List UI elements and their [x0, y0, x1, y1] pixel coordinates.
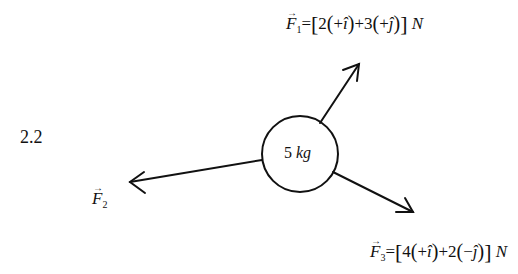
- force-unit: N: [412, 14, 423, 33]
- force-arrow-f2: [130, 160, 262, 193]
- sign-2: −: [463, 242, 473, 261]
- force-label-f1: →F1=[2(+î)+3(+ĵ)] N: [286, 13, 423, 35]
- vector-arrow-icon: →: [93, 183, 103, 193]
- subscript: 2: [102, 199, 107, 210]
- coefficient-2: 2: [448, 242, 457, 261]
- free-body-diagram: [0, 0, 518, 274]
- coefficient-1: 2: [318, 14, 327, 33]
- equals-sign: =: [385, 242, 395, 261]
- vector-f2: →F: [92, 190, 102, 207]
- vector-arrow-icon: →: [287, 8, 297, 18]
- vector-f3: →F: [370, 243, 380, 260]
- vector-arrow-icon: →: [371, 236, 381, 246]
- equals-sign: =: [301, 14, 311, 33]
- coefficient-2: 3: [364, 14, 373, 33]
- force-arrow-f3: [333, 172, 413, 212]
- problem-number: 2.2: [20, 128, 43, 146]
- force-label-f3: →F3=[4(+î)+2(−ĵ)] N: [370, 241, 507, 263]
- sign-1: +: [417, 242, 427, 261]
- bracket: ]: [400, 11, 407, 36]
- vector-f1: →F: [286, 15, 296, 32]
- mass-label: 5 kg: [284, 144, 311, 162]
- force-arrow-f1: [320, 64, 359, 123]
- sign-2: +: [379, 14, 389, 33]
- mass-unit: kg: [296, 144, 311, 161]
- mass-value: 5: [284, 144, 292, 161]
- force-label-f2: →F2: [92, 190, 107, 210]
- bracket: ]: [484, 239, 491, 264]
- coefficient-1: 4: [402, 242, 411, 261]
- plus-sign: +: [354, 14, 364, 33]
- force-unit: N: [496, 242, 507, 261]
- sign-1: +: [333, 14, 343, 33]
- plus-sign: +: [438, 242, 448, 261]
